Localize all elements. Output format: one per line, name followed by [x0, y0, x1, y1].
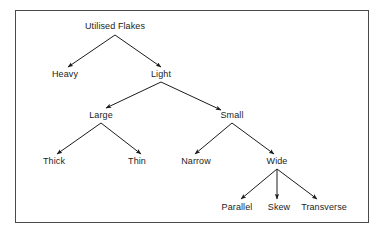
node-parallel[interactable]: Parallel: [222, 202, 253, 213]
node-heavy[interactable]: Heavy: [52, 69, 78, 80]
node-skew[interactable]: Skew: [268, 202, 290, 213]
node-large[interactable]: Large: [89, 110, 113, 121]
node-light[interactable]: Light: [151, 69, 171, 80]
node-small[interactable]: Small: [220, 110, 243, 121]
diagram-canvas: Utilised Flakes Heavy Light Large Small …: [0, 0, 384, 240]
diagram-frame-border: [15, 10, 369, 223]
node-thin[interactable]: Thin: [128, 156, 146, 167]
node-utilised-flakes[interactable]: Utilised Flakes: [85, 21, 145, 32]
node-transverse[interactable]: Transverse: [301, 202, 347, 213]
node-thick[interactable]: Thick: [43, 156, 65, 167]
node-wide[interactable]: Wide: [267, 156, 288, 167]
node-narrow[interactable]: Narrow: [181, 156, 211, 167]
